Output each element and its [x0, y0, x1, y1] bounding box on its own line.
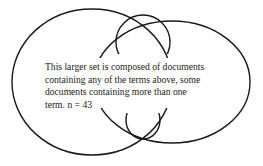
set-description-text: This larger set is composed of documents… [45, 61, 225, 111]
